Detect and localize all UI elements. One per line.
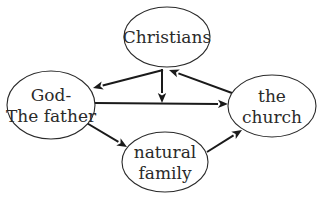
edge-christians-to-god-church-edge	[158, 69, 166, 103]
edge-church-to-christians	[169, 69, 232, 93]
edge-christians-to-god	[93, 70, 163, 90]
node-label: church	[242, 107, 302, 127]
node-label: God-	[31, 85, 71, 105]
node-christians: Christians	[123, 7, 211, 67]
node-god: God-The father	[6, 71, 97, 139]
edge-line	[103, 70, 163, 86]
arrowhead-icon	[218, 100, 228, 108]
edge-god-to-family	[85, 122, 127, 147]
node-label: The father	[6, 106, 97, 126]
node-label: family	[138, 163, 191, 183]
node-label: natural	[134, 142, 197, 162]
edge-line	[207, 135, 234, 152]
edge-family-to-church	[207, 130, 242, 152]
node-family: naturalfamily	[122, 132, 208, 192]
node-church: thechurch	[228, 75, 316, 137]
edge-line	[95, 103, 218, 104]
node-label: the	[258, 86, 286, 106]
arrowhead-icon	[231, 130, 242, 139]
relationship-diagram: ChristiansGod-The fatherthechurchnatural…	[0, 0, 322, 197]
node-label: Christians	[123, 27, 211, 47]
edge-line	[178, 73, 232, 93]
arrowhead-icon	[169, 69, 180, 77]
arrowhead-icon	[158, 93, 166, 103]
arrowhead-icon	[93, 81, 104, 89]
